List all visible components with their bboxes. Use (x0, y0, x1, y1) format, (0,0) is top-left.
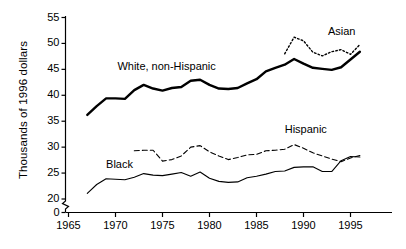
series-label-asian: Asian (328, 25, 356, 37)
x-tick-label: 1975 (143, 219, 183, 231)
line-chart-plot (0, 0, 406, 249)
y-tick-label: 25 (34, 166, 60, 178)
series-label-black: Black (106, 158, 133, 170)
series-label-white-non-hispanic: White, non-Hispanic (117, 60, 215, 72)
y-tick-label: 0 (34, 206, 60, 218)
x-tick-label: 1990 (284, 219, 324, 231)
x-tick-label: 1980 (190, 219, 230, 231)
chart-figure: Thousands of 1996 dollars 02025303540455… (0, 0, 406, 249)
y-tick-label: 20 (34, 192, 60, 204)
y-tick-label: 30 (34, 140, 60, 152)
x-tick-label: 1995 (331, 219, 371, 231)
y-axis-break-icon (63, 199, 69, 212)
y-tick-label: 40 (34, 88, 60, 100)
x-tick-marks (69, 213, 351, 218)
y-tick-label: 55 (34, 11, 60, 23)
y-tick-label: 45 (34, 62, 60, 74)
axis-lines (63, 16, 393, 213)
series-label-hispanic: Hispanic (285, 123, 327, 135)
series-line-hispanic (134, 145, 360, 162)
x-tick-label: 1965 (49, 219, 89, 231)
series-line-asian (285, 37, 360, 56)
x-tick-label: 1970 (96, 219, 136, 231)
y-tick-label: 35 (34, 114, 60, 126)
x-tick-label: 1985 (237, 219, 277, 231)
y-tick-label: 50 (34, 36, 60, 48)
